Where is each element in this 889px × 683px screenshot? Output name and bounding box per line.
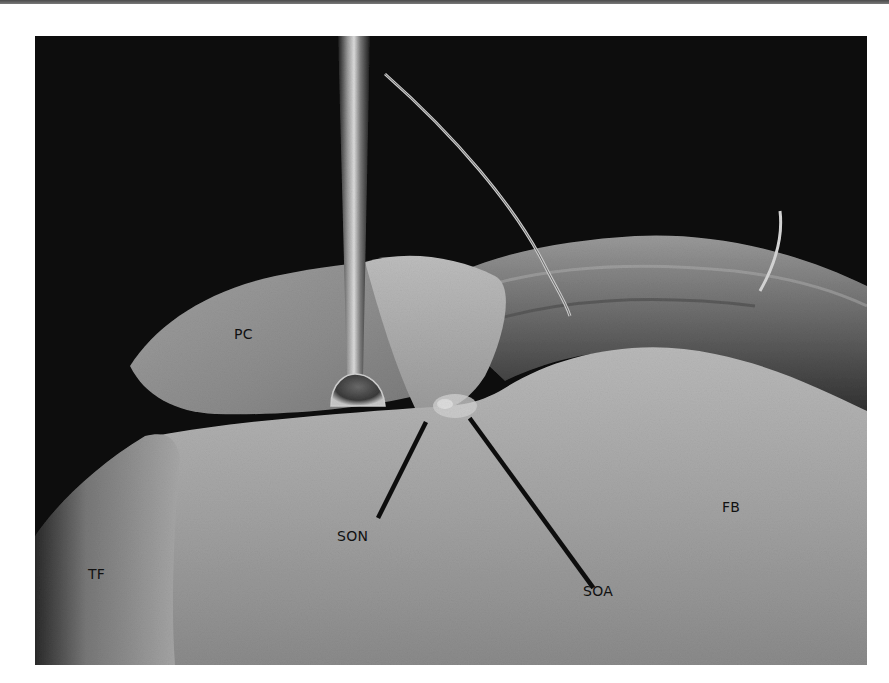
label-son: SON (337, 528, 368, 544)
label-pc: PC (234, 326, 253, 342)
label-tf: TF (88, 566, 105, 582)
label-soa: SOA (583, 583, 613, 599)
dissection-photo (35, 36, 867, 665)
top-edge-bar (0, 0, 889, 4)
label-fb: FB (722, 499, 740, 515)
